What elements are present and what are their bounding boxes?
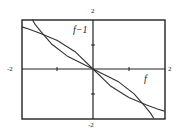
x-min-label: -2 [7,66,13,73]
f-inverse-label: f−1 [73,25,88,35]
y-min-label: -2 [88,122,94,129]
y-max-label: 2 [91,8,95,15]
f-label: f [144,74,147,84]
chart-plot [0,0,179,132]
x-max-label: 2 [168,66,172,73]
